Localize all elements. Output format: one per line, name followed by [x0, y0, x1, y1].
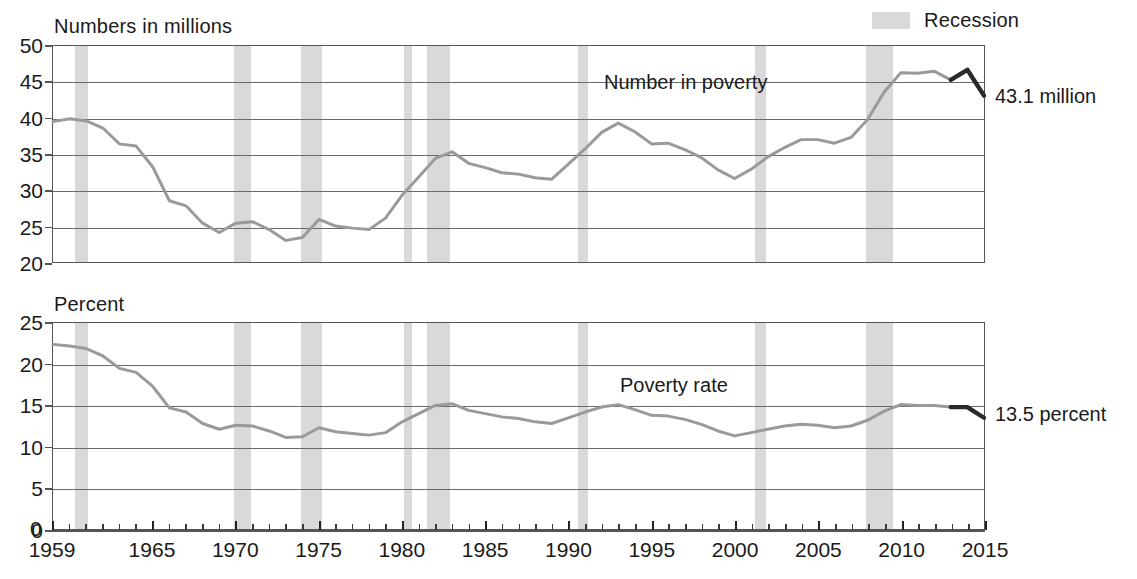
x-tick-minor — [519, 524, 521, 530]
series-line-historical — [53, 71, 951, 240]
recession-swatch-icon — [872, 12, 910, 29]
y-tick-mark — [45, 227, 52, 229]
x-tick-minor — [918, 524, 920, 530]
end-annotation-number: 43.1 million — [995, 86, 1096, 106]
x-tick-minor — [852, 524, 854, 530]
x-tick-label: 1990 — [545, 539, 592, 560]
top-axis-title: Numbers in millions — [54, 16, 232, 36]
x-tick-minor — [369, 524, 371, 530]
panel-number-in-poverty: 20253035404550 — [52, 45, 985, 263]
y-tick-mark — [45, 530, 52, 532]
x-tick-minor — [635, 524, 637, 530]
x-tick-minor — [469, 524, 471, 530]
x-tick-minor — [452, 524, 454, 530]
y-tick-label: 15 — [20, 395, 43, 416]
x-tick-minor — [552, 524, 554, 530]
x-tick-major — [818, 521, 820, 530]
end-annotation-rate: 13.5 percent — [995, 404, 1106, 424]
x-tick-minor — [885, 524, 887, 530]
x-tick-minor — [685, 524, 687, 530]
y-tick-mark — [45, 488, 52, 490]
series-label-poverty-rate: Poverty rate — [620, 375, 728, 395]
y-tick-label: 30 — [20, 180, 43, 201]
x-tick-major — [402, 521, 404, 530]
x-tick-minor — [202, 524, 204, 530]
y-tick-mark — [45, 118, 52, 120]
x-tick-minor — [252, 524, 254, 530]
y-tick-label: 25 — [20, 216, 43, 237]
x-tick-minor — [618, 524, 620, 530]
x-tick-minor — [585, 524, 587, 530]
x-tick-minor — [802, 524, 804, 530]
x-tick-major — [152, 521, 154, 530]
x-tick-minor — [285, 524, 287, 530]
x-tick-label: 1985 — [462, 539, 509, 560]
x-axis: 1959196519701975198019851990199520002005… — [52, 530, 985, 576]
y-tick-mark — [45, 81, 52, 83]
x-tick-minor — [535, 524, 537, 530]
x-tick-minor — [135, 524, 137, 530]
x-tick-major — [235, 521, 237, 530]
panel-poverty-rate: 0510152025 — [52, 322, 985, 530]
x-tick-minor — [602, 524, 604, 530]
series-line-recent — [951, 407, 984, 418]
bottom-axis-title: Percent — [54, 294, 124, 314]
y-tick-mark — [45, 447, 52, 449]
y-tick-mark — [45, 45, 52, 47]
x-tick-minor — [269, 524, 271, 530]
x-tick-minor — [185, 524, 187, 530]
x-tick-major — [485, 521, 487, 530]
x-tick-label: 1975 — [295, 539, 342, 560]
x-tick-major — [985, 521, 987, 530]
y-tick-mark — [45, 190, 52, 192]
x-tick-label: 2000 — [712, 539, 759, 560]
x-tick-minor — [385, 524, 387, 530]
series-line-recent — [951, 70, 984, 96]
y-tick-label: 40 — [20, 107, 43, 128]
x-tick-major — [735, 521, 737, 530]
x-tick-minor — [219, 524, 221, 530]
series-label-number-in-poverty: Number in poverty — [604, 72, 767, 92]
x-tick-minor — [952, 524, 954, 530]
x-tick-minor — [419, 524, 421, 530]
x-tick-label: 2015 — [962, 539, 1009, 560]
x-tick-label: 2005 — [795, 539, 842, 560]
series-line-historical — [53, 344, 951, 437]
x-tick-label: 1980 — [379, 539, 426, 560]
x-tick-minor — [835, 524, 837, 530]
series-top — [53, 46, 984, 262]
x-tick-minor — [119, 524, 121, 530]
x-tick-minor — [85, 524, 87, 530]
x-tick-minor — [302, 524, 304, 530]
y-tick-mark — [45, 405, 52, 407]
x-tick-minor — [768, 524, 770, 530]
x-tick-label: 1959 — [29, 539, 76, 560]
x-tick-minor — [868, 524, 870, 530]
y-tick-label: 50 — [20, 35, 43, 56]
x-tick-major — [902, 521, 904, 530]
x-tick-minor — [102, 524, 104, 530]
y-tick-mark — [45, 154, 52, 156]
x-tick-major — [568, 521, 570, 530]
y-tick-label: 45 — [20, 71, 43, 92]
x-tick-minor — [69, 524, 71, 530]
x-tick-minor — [169, 524, 171, 530]
y-tick-label: 25 — [20, 312, 43, 333]
x-tick-major — [652, 521, 654, 530]
x-tick-minor — [668, 524, 670, 530]
y-tick-label: 20 — [20, 253, 43, 274]
y-tick-label: 5 — [31, 478, 43, 499]
y-tick-mark — [45, 263, 52, 265]
x-tick-label: 1995 — [628, 539, 675, 560]
plot-area-top — [52, 45, 985, 263]
x-tick-minor — [502, 524, 504, 530]
y-tick-label: 20 — [20, 353, 43, 374]
x-tick-minor — [352, 524, 354, 530]
plot-area-bottom — [52, 322, 985, 530]
x-tick-minor — [435, 524, 437, 530]
legend-label-recession: Recession — [924, 10, 1019, 30]
x-tick-minor — [718, 524, 720, 530]
zero-label: 0 — [30, 518, 42, 539]
poverty-figure: Recession Numbers in millions Percent 20… — [0, 0, 1137, 579]
x-tick-minor — [935, 524, 937, 530]
